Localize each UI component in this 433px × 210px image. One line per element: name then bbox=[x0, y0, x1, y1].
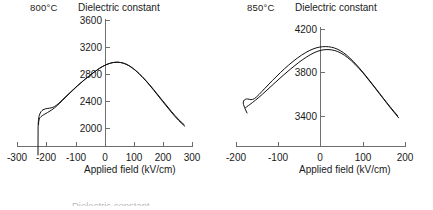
x-axis-title-800c: Applied field (kV/cm) bbox=[84, 164, 176, 175]
xtick-800c-zero: 0 bbox=[102, 152, 108, 163]
x-axis-title-850c: Applied field (kV/cm) bbox=[299, 164, 391, 175]
xtick-850c-neg200: -200 bbox=[226, 152, 246, 163]
xtick-800c-neg100: -100 bbox=[66, 152, 86, 163]
panel-800c: 800°C Dielectric constant bbox=[0, 0, 216, 185]
curve-800c-upward bbox=[38, 62, 184, 155]
curve-800c-downward bbox=[39, 62, 185, 126]
xtick-800c-300: 300 bbox=[184, 152, 201, 163]
xtick-850c-zero: 0 bbox=[317, 152, 323, 163]
cut-off-caption: Dielectric constant bbox=[72, 200, 150, 206]
y-tickmarks-850c bbox=[321, 30, 325, 117]
xtick-850c-200: 200 bbox=[397, 152, 414, 163]
ytick-850c-4200: 4200 bbox=[287, 24, 317, 35]
xtick-850c-100: 100 bbox=[355, 152, 372, 163]
x-tickmarks-850c bbox=[237, 142, 406, 147]
xtick-850c-neg100: -100 bbox=[268, 152, 288, 163]
curve-800c-return-hook bbox=[39, 119, 40, 125]
x-tickmarks-800c bbox=[18, 142, 193, 147]
panel-850c: 850°C Dielectric constant bbox=[217, 0, 433, 185]
ytick-800c-2000: 2000 bbox=[72, 123, 102, 134]
y-tickmarks-800c bbox=[106, 21, 110, 129]
xtick-800c-neg200: -200 bbox=[36, 152, 56, 163]
xtick-800c-200: 200 bbox=[155, 152, 172, 163]
xtick-800c-100: 100 bbox=[126, 152, 143, 163]
ytick-850c-3800: 3800 bbox=[287, 67, 317, 78]
ytick-800c-3200: 3200 bbox=[72, 42, 102, 53]
ytick-800c-2800: 2800 bbox=[72, 69, 102, 80]
figure-container: 800°C Dielectric constant bbox=[0, 0, 433, 210]
ytick-850c-3400: 3400 bbox=[287, 111, 317, 122]
ytick-800c-3600: 3600 bbox=[72, 15, 102, 26]
xtick-800c-neg300: -300 bbox=[7, 152, 27, 163]
curve-850c-downward bbox=[245, 50, 398, 118]
ytick-800c-2400: 2400 bbox=[72, 96, 102, 107]
